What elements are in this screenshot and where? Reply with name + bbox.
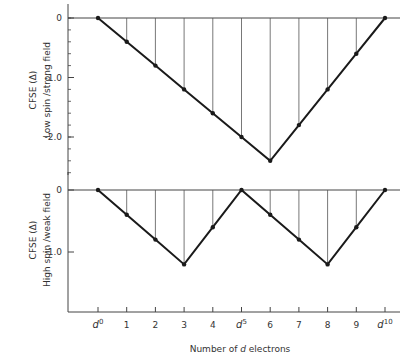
x-tick-label: d10 [377, 318, 392, 330]
top-ylabel-line1: CFSE (Δ) [28, 71, 38, 110]
data-point [354, 52, 358, 56]
x-tick-label: 2 [153, 320, 159, 330]
y-tick-label: 0 [56, 13, 62, 23]
x-axis-title: Number of d electrons [190, 344, 291, 354]
data-point [96, 188, 100, 192]
data-point [211, 111, 215, 115]
data-point [239, 188, 243, 192]
y-tick-label: 0 [56, 185, 62, 195]
x-axis: d01234d56789d10 [68, 307, 400, 330]
data-point [325, 87, 329, 91]
x-tick-label: d5 [236, 318, 247, 330]
x-tick-label: 1 [124, 320, 130, 330]
bottom-ylabel-line2: High spin /weak field [42, 193, 52, 287]
x-tick-label: 3 [181, 320, 187, 330]
top-ylabel-line2: Low spin /strong field [42, 42, 52, 138]
data-point [153, 63, 157, 67]
cfse-line [98, 190, 385, 264]
data-point [325, 262, 329, 266]
data-point [239, 135, 243, 139]
low-spin-panel: 0-1.0-2.0 [44, 4, 400, 175]
data-point [354, 225, 358, 229]
data-point [297, 237, 301, 241]
x-tick-label: 6 [267, 320, 273, 330]
high-spin-panel: 0-1.0 [44, 172, 400, 312]
x-tick-label: d0 [93, 318, 104, 330]
data-point [268, 159, 272, 163]
data-point [383, 188, 387, 192]
data-point [268, 213, 272, 217]
data-point [125, 40, 129, 44]
data-point [153, 237, 157, 241]
bottom-ylabel-line1: CFSE (Δ) [28, 221, 38, 260]
data-point [383, 16, 387, 20]
data-point [96, 16, 100, 20]
x-tick-label: 8 [325, 320, 331, 330]
x-tick-label: 4 [210, 320, 216, 330]
data-point [125, 213, 129, 217]
data-point [297, 123, 301, 127]
data-point [211, 225, 215, 229]
data-point [182, 262, 186, 266]
data-point [182, 87, 186, 91]
x-tick-label: 7 [296, 320, 302, 330]
x-tick-label: 9 [353, 320, 359, 330]
cfse-chart: 0-1.0-2.0 0-1.0 d01234d56789d10 CFSE (Δ)… [0, 0, 412, 357]
